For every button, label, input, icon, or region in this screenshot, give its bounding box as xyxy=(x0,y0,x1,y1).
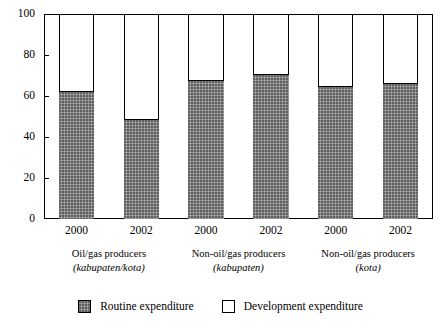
y-axis-tick-label: 60 xyxy=(24,90,36,102)
group-label: Non-oil/gas producers(kabupaten) xyxy=(174,247,304,274)
y-axis-tick-label: 20 xyxy=(24,172,36,184)
group-label: Oil/gas producers(kabupaten/kota) xyxy=(44,247,174,274)
group-label-line2: (kota) xyxy=(303,261,433,275)
bar-group xyxy=(383,14,418,219)
legend-item: Development expenditure xyxy=(222,300,363,313)
legend-swatch-development xyxy=(222,300,235,313)
y-axis-tick-mark xyxy=(44,96,49,97)
bar-segment-routine xyxy=(383,83,418,219)
x-axis-year-label: 2002 xyxy=(109,224,174,236)
y-axis: 020406080100 xyxy=(0,0,44,233)
bar-group xyxy=(124,14,159,219)
x-axis-year-label: 2002 xyxy=(368,224,433,236)
bar-group xyxy=(188,14,223,219)
bar-segment-routine xyxy=(318,86,353,219)
group-label-line2: (kabupaten/kota) xyxy=(44,261,174,275)
y-axis-tick-label: 40 xyxy=(24,131,36,143)
legend-item: Routine expenditure xyxy=(78,300,194,313)
bar-group xyxy=(253,14,288,219)
x-axis-year-label: 2002 xyxy=(239,224,304,236)
y-axis-tick-label: 100 xyxy=(18,8,35,20)
legend-label: Development expenditure xyxy=(244,300,363,312)
bar-segment-routine xyxy=(253,74,288,219)
legend-label: Routine expenditure xyxy=(100,300,194,312)
bars-layer xyxy=(44,14,433,219)
bar-segment-routine xyxy=(59,91,94,219)
bar-group xyxy=(318,14,353,219)
y-axis-tick-label: 0 xyxy=(29,213,35,225)
group-label-line2: (kabupaten) xyxy=(174,261,304,275)
chart-legend: Routine expenditureDevelopment expenditu… xyxy=(0,296,441,316)
x-axis-year-label: 2000 xyxy=(174,224,239,236)
group-label-line1: Non-oil/gas producers xyxy=(303,247,433,261)
group-label-line1: Non-oil/gas producers xyxy=(174,247,304,261)
y-axis-tick-mark xyxy=(44,178,49,179)
stacked-bar-chart-figure: 020406080100 200020022000200220002002 Oi… xyxy=(0,0,441,325)
x-axis-year-label: 2000 xyxy=(44,224,109,236)
x-axis-year-label: 2000 xyxy=(303,224,368,236)
y-axis-tick-mark xyxy=(44,137,49,138)
group-label-line1: Oil/gas producers xyxy=(44,247,174,261)
bar-segment-routine xyxy=(124,119,159,219)
y-axis-tick-mark xyxy=(44,55,49,56)
bar-segment-routine xyxy=(188,80,223,219)
group-label: Non-oil/gas producers(kota) xyxy=(303,247,433,274)
legend-swatch-routine xyxy=(78,300,91,313)
bar-group xyxy=(59,14,94,219)
y-axis-tick-label: 80 xyxy=(24,49,36,61)
